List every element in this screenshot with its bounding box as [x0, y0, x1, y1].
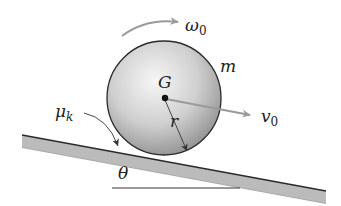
center-of-mass-dot [162, 95, 168, 101]
angle-label: θ [118, 163, 128, 183]
center-label-g: G [158, 72, 172, 92]
omega-label: ω0 [185, 15, 207, 38]
velocity-label: v0 [261, 106, 278, 129]
angular-velocity-arrow [122, 21, 178, 36]
mass-label: m [220, 56, 236, 76]
radius-label: r [170, 111, 179, 131]
friction-coefficient-label: μk [55, 101, 73, 124]
sphere-on-incline-diagram: ω0 m G v0 μk r θ [0, 0, 341, 206]
